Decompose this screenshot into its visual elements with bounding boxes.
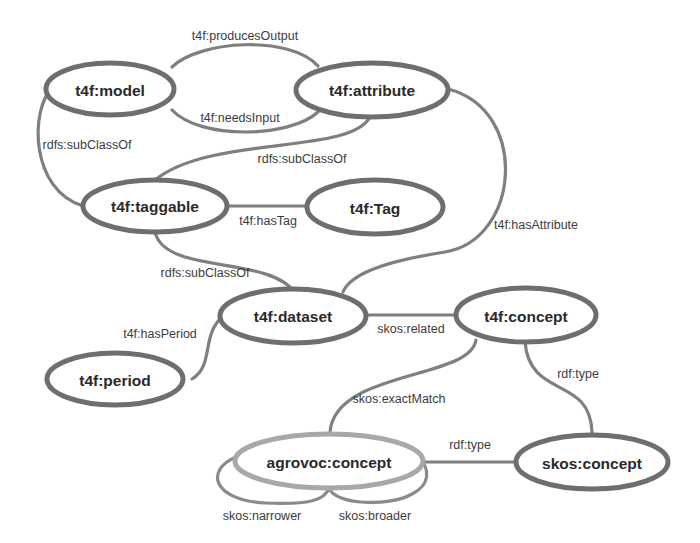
- node-concept[interactable]: t4f:concept: [456, 288, 596, 342]
- node-attribute[interactable]: t4f:attribute: [296, 63, 448, 117]
- node-skos-concept-label: skos:concept: [542, 455, 642, 472]
- edge-has-period: [192, 315, 224, 379]
- label-has-period: t4f:hasPeriod: [123, 327, 197, 341]
- label-has-tag: t4f:hasTag: [239, 214, 297, 228]
- node-concept-label: t4f:concept: [484, 308, 568, 325]
- node-attribute-label: t4f:attribute: [329, 82, 415, 99]
- label-model-subclass: rdfs:subClassOf: [43, 138, 132, 152]
- label-has-attribute: t4f:hasAttribute: [494, 218, 578, 232]
- node-period-label: t4f:period: [79, 372, 150, 389]
- node-taggable[interactable]: t4f:taggable: [83, 180, 227, 232]
- node-dataset-label: t4f:dataset: [254, 308, 332, 325]
- label-related: skos:related: [377, 322, 444, 336]
- edge-exact-match: [330, 340, 476, 432]
- node-dataset[interactable]: t4f:dataset: [220, 289, 366, 343]
- node-model-label: t4f:model: [75, 82, 145, 99]
- edge-concept-rdf-type: [525, 342, 592, 432]
- label-dataset-subclass: rdfs:subClassOf: [161, 266, 250, 280]
- node-tag[interactable]: t4f:Tag: [307, 180, 443, 234]
- ontology-diagram: t4f:model t4f:attribute t4f:taggable t4f…: [0, 0, 700, 543]
- node-skos-concept[interactable]: skos:concept: [516, 435, 668, 489]
- label-concept-rdf-type: rdf:type: [557, 367, 599, 381]
- label-attribute-subclass: rdfs:subClassOf: [258, 152, 347, 166]
- label-broader: skos:broader: [339, 509, 411, 523]
- label-produces-output: t4f:producesOutput: [192, 29, 299, 43]
- edge-produces-output: [172, 45, 318, 67]
- edge-dataset-subclass: [155, 232, 295, 293]
- node-taggable-label: t4f:taggable: [111, 198, 199, 215]
- node-model[interactable]: t4f:model: [46, 63, 174, 115]
- node-agrovoc-concept[interactable]: agrovoc:concept: [235, 434, 423, 488]
- edge-attribute-subclass: [155, 117, 370, 180]
- label-exact-match: skos:exactMatch: [352, 392, 445, 406]
- node-tag-label: t4f:Tag: [350, 200, 401, 217]
- label-narrower: skos:narrower: [223, 509, 302, 523]
- label-agrovoc-rdf-type: rdf:type: [449, 438, 491, 452]
- node-agrovoc-concept-label: agrovoc:concept: [267, 454, 392, 471]
- label-needs-input: t4f:needsInput: [200, 111, 280, 125]
- node-period[interactable]: t4f:period: [47, 353, 183, 405]
